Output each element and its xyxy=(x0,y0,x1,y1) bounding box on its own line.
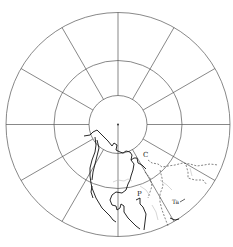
polar-map: C P Ta xyxy=(0,0,233,247)
faint-river xyxy=(113,179,158,220)
arrow-icon xyxy=(180,199,185,202)
meridian-line xyxy=(143,139,215,181)
east-coast-line xyxy=(170,218,179,220)
north-america-west-coast xyxy=(84,130,134,190)
meridian-line xyxy=(133,28,175,100)
boundary-line xyxy=(148,160,218,167)
meridian-line xyxy=(21,139,93,181)
pole-marker xyxy=(117,124,119,126)
label-ta: Ta xyxy=(172,198,180,205)
boundary-line xyxy=(160,170,168,226)
boundary-line xyxy=(186,165,207,185)
meridian-line xyxy=(62,28,104,100)
graticule xyxy=(6,13,230,237)
central-america-coast xyxy=(136,198,146,230)
meridian-line xyxy=(21,69,93,111)
meridian-line xyxy=(62,150,104,222)
faint-river xyxy=(160,168,192,190)
political-boundaries xyxy=(113,160,218,226)
coastlines xyxy=(84,130,146,230)
label-p: P xyxy=(137,190,142,198)
meridian-line xyxy=(143,69,215,111)
baja-california xyxy=(91,186,93,198)
pacific-coast xyxy=(90,137,116,222)
gulf-of-mexico-coast xyxy=(110,190,140,229)
label-c: C xyxy=(143,151,148,159)
